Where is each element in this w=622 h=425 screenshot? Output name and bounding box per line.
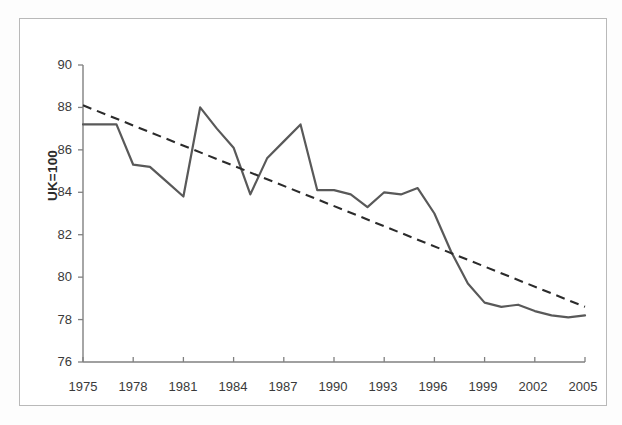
x-axis-ticks	[83, 357, 585, 362]
chart-canvas	[0, 0, 622, 425]
y-axis-ticks	[78, 65, 83, 362]
axes	[78, 65, 585, 362]
data-series-line	[83, 107, 585, 317]
figure: UK=100 90 88 86 84 82 80 78 76 1975 1978…	[0, 0, 622, 425]
trend-line	[83, 105, 585, 307]
